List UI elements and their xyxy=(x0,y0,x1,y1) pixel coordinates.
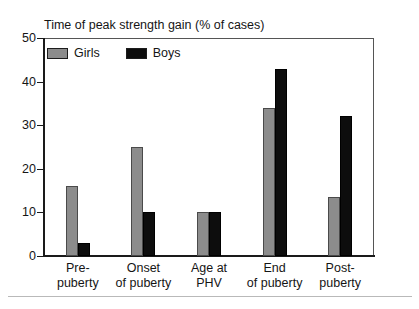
bar-boys-post-puberty xyxy=(340,116,352,256)
bar-boys-end-of-puberty xyxy=(275,69,287,256)
bar-boys-pre-puberty xyxy=(78,243,90,256)
bar-girls-age-at-phv xyxy=(197,212,209,256)
bar-group xyxy=(66,38,90,256)
bars-layer xyxy=(45,38,373,256)
y-axis-tick-label: 30 xyxy=(22,119,36,131)
bar-group xyxy=(197,38,221,256)
y-axis-tick-label: 50 xyxy=(22,32,36,44)
y-axis-tick xyxy=(37,125,44,126)
bar-group xyxy=(263,38,287,256)
bar-boys-onset-of-puberty xyxy=(143,212,155,256)
bottom-divider xyxy=(8,296,412,297)
bar-group xyxy=(328,38,352,256)
x-axis-label-line2: puberty xyxy=(290,276,390,291)
bar-girls-pre-puberty xyxy=(66,186,78,256)
y-axis-tick xyxy=(37,212,44,213)
bar-group xyxy=(131,38,155,256)
y-axis-tick-label: 10 xyxy=(22,206,36,218)
bar-girls-post-puberty xyxy=(328,197,340,256)
y-axis-tick xyxy=(37,38,44,39)
bar-boys-age-at-phv xyxy=(209,212,221,256)
chart-title: Time of peak strength gain (% of cases) xyxy=(44,18,264,32)
y-axis-tick-label: 20 xyxy=(22,163,36,175)
y-axis-tick xyxy=(37,256,44,257)
y-axis-tick xyxy=(37,169,44,170)
x-axis-labels: Pre-pubertyOnsetof pubertyAge atPHVEndof… xyxy=(45,261,373,297)
x-axis-label-line1: Post- xyxy=(290,261,390,276)
y-axis-tick-label: 40 xyxy=(22,76,36,88)
x-axis-label: Post-puberty xyxy=(290,261,390,290)
y-axis-tick xyxy=(37,82,44,83)
bar-girls-end-of-puberty xyxy=(263,108,275,256)
figure: Time of peak strength gain (% of cases) … xyxy=(0,0,419,309)
bar-girls-onset-of-puberty xyxy=(131,147,143,256)
